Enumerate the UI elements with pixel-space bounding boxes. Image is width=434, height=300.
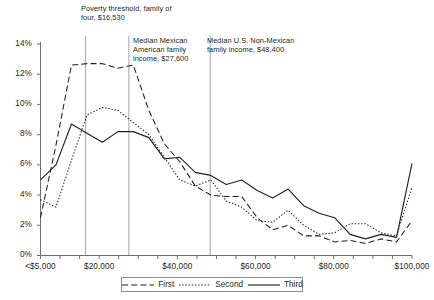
- series-line-first: [41, 64, 413, 244]
- y-tick-label: 10%: [6, 99, 32, 108]
- annotation-poverty-threshold: Poverty threshold, family of four, $16,5…: [81, 4, 201, 22]
- legend-swatch-dotted-icon: [178, 281, 212, 289]
- annotation-median-us-non-mexican-income: Median U.S. Non-Mexican family income, $…: [207, 36, 311, 54]
- axes: [41, 42, 413, 256]
- x-tick-label: $80,000: [302, 262, 366, 271]
- y-tick-label: 8%: [6, 129, 32, 138]
- y-tick-label: 4%: [6, 190, 32, 199]
- y-tick-label: 2%: [6, 220, 32, 229]
- y-tick-label: 0%: [6, 250, 32, 259]
- x-tick-label: $60,000: [224, 262, 288, 271]
- x-tick-label: $100,000: [380, 262, 434, 271]
- legend-label: First: [158, 280, 174, 289]
- x-tick-label: $40,000: [145, 262, 209, 271]
- legend-swatch-dashed-icon: [121, 281, 155, 289]
- y-tick-label: 12%: [6, 69, 32, 78]
- annotation-median-mexican-american-income: Median Mexican American family income, $…: [133, 36, 201, 64]
- reference-lines: [86, 36, 211, 256]
- series-line-third: [41, 124, 413, 239]
- legend-label: Second: [215, 280, 243, 289]
- y-tick-label: 14%: [6, 39, 32, 48]
- x-axis-ticks: [41, 256, 413, 260]
- legend-item-second: Second: [178, 280, 243, 289]
- legend-item-third: Third: [247, 280, 303, 289]
- x-tick-label: $20,000: [67, 262, 131, 271]
- y-tick-label: 6%: [6, 159, 32, 168]
- data-series: [41, 64, 413, 244]
- legend-swatch-solid-icon: [247, 281, 281, 289]
- chart-legend: FirstSecondThird: [121, 277, 303, 292]
- y-axis-ticks: [37, 44, 41, 256]
- legend-label: Third: [284, 280, 303, 289]
- legend-item-first: First: [121, 280, 174, 289]
- x-tick-label: <$5,000: [9, 262, 73, 271]
- series-line-second: [41, 107, 413, 235]
